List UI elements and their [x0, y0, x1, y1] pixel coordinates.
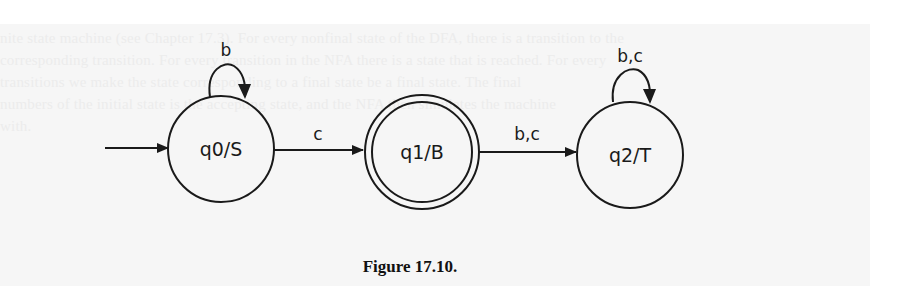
self-loop-q0: b — [209, 40, 251, 99]
transition-q0-q1-label: c — [313, 124, 322, 144]
self-loop-q2: b,c — [613, 46, 656, 104]
transition-q1-q2-label: b,c — [514, 124, 540, 144]
self-loop-q2-label: b,c — [617, 46, 643, 66]
transition-q1-q2: b,c — [479, 124, 576, 152]
state-q1: q1/B — [365, 95, 479, 209]
state-q0-label: q0/S — [200, 138, 243, 160]
state-machine-diagram: q0/S b c q1/B b,c q2/T b,c — [0, 0, 911, 297]
self-loop-q0-label: b — [221, 40, 232, 60]
state-q2: q2/T — [577, 102, 683, 208]
state-q2-label: q2/T — [609, 144, 652, 166]
state-q1-label: q1/B — [400, 141, 444, 163]
state-q0: q0/S — [168, 96, 274, 202]
transition-q0-q1: c — [274, 124, 363, 150]
figure-caption: Figure 17.10. — [330, 257, 490, 277]
